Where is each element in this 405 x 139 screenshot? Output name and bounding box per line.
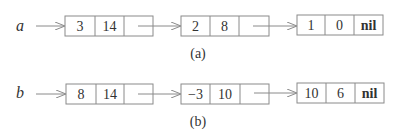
node-field-coef: 3	[77, 19, 84, 34]
node-field-coef: 10	[305, 86, 319, 101]
caption-a: (a)	[190, 46, 206, 62]
node-field-coef: −3	[188, 87, 203, 102]
node-field-exp: 10	[218, 87, 232, 102]
list-b-node-2: −3 10	[181, 84, 269, 104]
list-b-node-3: 10 6 nil	[297, 83, 384, 103]
variable-label-a: a	[16, 17, 24, 34]
node-field-exp: 6	[337, 86, 344, 101]
list-a-node-3: 1 0 nil	[297, 15, 383, 35]
nil-pointer-label: nil	[362, 86, 378, 101]
node-field-exp: 8	[221, 19, 228, 34]
node-field-exp: 14	[103, 19, 117, 34]
caption-b: (b)	[190, 114, 207, 130]
node-field-exp: 0	[336, 18, 343, 33]
linked-list-diagram: a 3 14 2 8 1 0 nil (a)	[0, 0, 405, 139]
node-field-exp: 14	[103, 87, 117, 102]
list-a: a 3 14 2 8 1 0 nil (a)	[16, 15, 383, 62]
nil-pointer-label: nil	[361, 18, 377, 33]
node-field-coef: 2	[192, 19, 199, 34]
node-field-coef: 8	[78, 87, 85, 102]
variable-label-b: b	[16, 84, 24, 101]
list-b: b 8 14 −3 10 10 6 nil (b)	[16, 83, 384, 130]
node-field-coef: 1	[308, 18, 315, 33]
